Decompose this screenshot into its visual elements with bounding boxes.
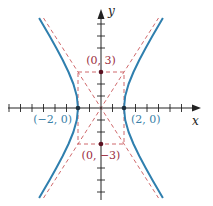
left-vertex-label: (−2, 0)	[33, 113, 72, 126]
top-covertex-point	[99, 70, 104, 75]
x-axis-label: x	[192, 114, 199, 128]
y-axis-arrow-icon	[98, 9, 105, 19]
hyperbola-figure: y x (0, 3) (0, −3) (−2, 0) (2, 0)	[0, 0, 213, 206]
graph-canvas: y x (0, 3) (0, −3) (−2, 0) (2, 0)	[0, 0, 213, 206]
bottom-covertex-point	[99, 142, 104, 147]
y-axis-label: y	[107, 4, 115, 18]
right-vertex-point	[122, 106, 127, 111]
top-covertex-label: (0, 3)	[86, 54, 116, 67]
bottom-covertex-label: (0, −3)	[82, 149, 121, 162]
left-vertex-point	[76, 106, 81, 111]
x-axis-arrow-icon	[192, 105, 201, 112]
right-vertex-label: (2, 0)	[131, 113, 161, 126]
